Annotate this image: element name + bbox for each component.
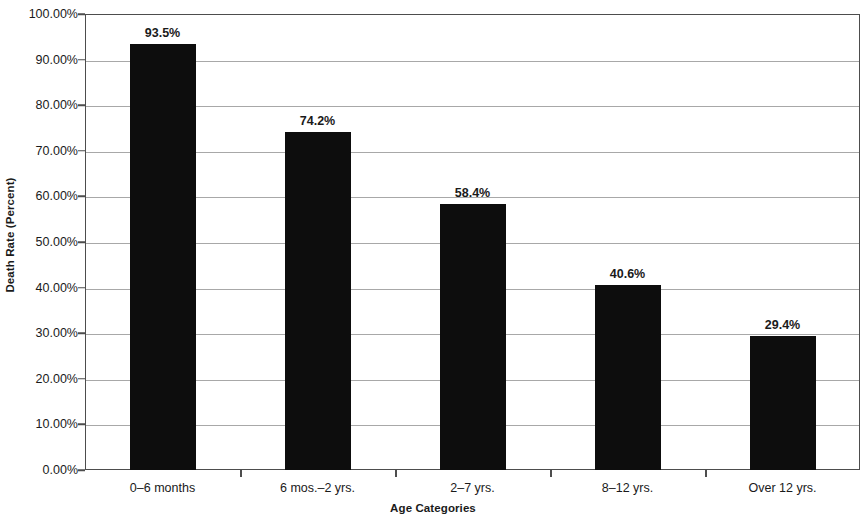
y-axis-tick-mark (78, 59, 85, 61)
gridline (86, 425, 859, 426)
y-axis-tick-label: 80.00% (14, 99, 78, 112)
y-axis-tick-label: 40.00% (14, 281, 78, 294)
x-axis-tick-mark (550, 470, 552, 477)
y-axis-tick-label: 10.00% (14, 418, 78, 431)
y-axis-tick-label: 20.00% (14, 373, 78, 386)
bar-value-label: 74.2% (300, 114, 335, 127)
bar-value-label: 93.5% (145, 26, 180, 39)
y-axis-tick-mark (78, 150, 85, 152)
gridline (86, 380, 859, 381)
x-axis-tick-mark (240, 470, 242, 477)
y-axis-tick-mark (78, 196, 85, 198)
gridline (86, 106, 859, 107)
x-axis-tick-mark (395, 470, 397, 477)
x-axis-tick-label: 0–6 months (130, 482, 195, 495)
x-axis-tick-label: 6 mos.–2 yrs. (280, 482, 355, 495)
bar-value-label: 58.4% (455, 186, 490, 199)
y-axis-tick-mark (78, 469, 85, 471)
x-axis-title: Age Categories (0, 502, 866, 514)
y-axis-tick-label: 100.00% (14, 8, 78, 21)
y-axis-tick-label: 60.00% (14, 190, 78, 203)
y-axis-tick-label: 0.00% (14, 464, 78, 477)
y-axis-tick-mark (78, 241, 85, 243)
bar-chart: Death Rate (Percent) 0.00%10.00%20.00%30… (0, 0, 866, 524)
y-axis-tick-label: 90.00% (14, 53, 78, 66)
gridline (86, 334, 859, 335)
bar-value-label: 29.4% (765, 318, 800, 331)
y-axis-tick-label: 50.00% (14, 236, 78, 249)
y-axis-tick-mark (78, 287, 85, 289)
gridline (86, 152, 859, 153)
y-axis-tick-labels: 0.00%10.00%20.00%30.00%40.00%50.00%60.00… (14, 0, 78, 524)
plot-area (85, 14, 860, 470)
y-axis-tick-mark (78, 13, 85, 15)
y-axis-tick-label: 70.00% (14, 145, 78, 158)
gridline (86, 243, 859, 244)
bar-value-label: 40.6% (610, 267, 645, 280)
y-axis-tick-label: 30.00% (14, 327, 78, 340)
gridline (86, 61, 859, 62)
y-axis-tick-mark (78, 378, 85, 380)
x-axis-tick-label: 2–7 yrs. (450, 482, 494, 495)
y-axis-tick-mark (78, 104, 85, 106)
gridline (86, 289, 859, 290)
x-axis-tick-label: Over 12 yrs. (748, 482, 816, 495)
y-axis-tick-mark (78, 332, 85, 334)
x-axis-tick-mark (705, 470, 707, 477)
y-axis-tick-mark (78, 424, 85, 426)
x-axis-tick-label: 8–12 yrs. (602, 482, 653, 495)
